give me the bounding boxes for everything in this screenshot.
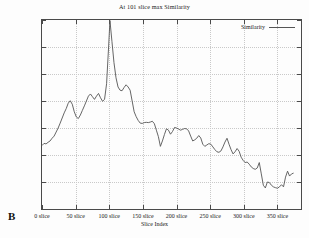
panel-label: B: [8, 210, 15, 222]
y-tick-mark: [42, 209, 46, 210]
x-tick-label: 300 slice: [233, 213, 255, 219]
chart-title: At 101 slice max Similarity: [0, 3, 309, 10]
chart-figure: At 101 slice max Similarity Similarity V…: [0, 0, 309, 238]
similarity-line-series: [42, 20, 301, 209]
x-tick-label: 100 slice: [99, 213, 121, 219]
x-tick-label: 150 slice: [132, 213, 154, 219]
x-tick-label: 50 slice: [66, 213, 85, 219]
y-tick-mark: [297, 209, 301, 210]
x-tick-label: 200 slice: [166, 213, 188, 219]
legend-label: Similarity: [241, 24, 265, 30]
legend: Similarity: [241, 24, 295, 30]
x-tick-label: 0 slice: [34, 213, 50, 219]
x-tick-label: 350 slice: [267, 213, 289, 219]
x-axis-label: Slice Index: [0, 221, 309, 227]
plot-area: 0.20.30.40.50.60.70.80.90 slice50 slice1…: [41, 19, 302, 210]
series-path-similarity: [42, 21, 294, 189]
x-tick-label: 250 slice: [199, 213, 221, 219]
legend-line-swatch: [269, 27, 295, 28]
